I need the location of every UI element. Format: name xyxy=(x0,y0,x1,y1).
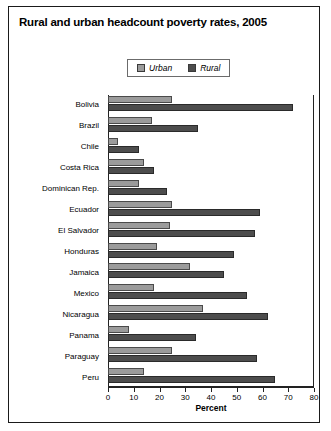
bar-rural xyxy=(108,334,196,341)
x-tick xyxy=(160,388,161,392)
bar-group xyxy=(108,95,314,116)
x-tick-label: 60 xyxy=(258,393,267,402)
bar-urban xyxy=(108,222,170,229)
bar-group xyxy=(108,221,314,242)
category-label: Costa Rica xyxy=(60,163,99,172)
x-axis: 01020304050607080 xyxy=(108,388,314,404)
x-tick xyxy=(288,388,289,392)
bar-urban xyxy=(108,368,144,375)
category-label: Peru xyxy=(82,373,99,382)
rural-swatch-icon xyxy=(188,64,196,72)
bar-rural xyxy=(108,292,247,299)
category-label: Paraguay xyxy=(65,352,99,361)
legend-label-urban: Urban xyxy=(149,63,172,73)
bar-urban xyxy=(108,159,144,166)
bar-group xyxy=(108,367,314,388)
bar-rural xyxy=(108,251,234,258)
chart-legend: Urban Rural xyxy=(127,59,230,77)
category-label: Brazil xyxy=(79,121,99,130)
category-label: Honduras xyxy=(64,247,99,256)
bar-group xyxy=(108,137,314,158)
bar-rural xyxy=(108,209,260,216)
category-label: Chile xyxy=(81,142,99,151)
bar-group xyxy=(108,116,314,137)
x-tick xyxy=(108,388,109,392)
category-label: El Salvador xyxy=(58,226,99,235)
bar-urban xyxy=(108,138,118,145)
category-label: Jamaica xyxy=(69,268,99,277)
category-label: Ecuador xyxy=(69,205,99,214)
bar-group xyxy=(108,158,314,179)
chart-figure: Rural and urban headcount poverty rates,… xyxy=(8,6,320,423)
bar-rural xyxy=(108,167,154,174)
legend-entry-rural: Rural xyxy=(188,63,220,73)
x-tick xyxy=(211,388,212,392)
bar-urban xyxy=(108,180,139,187)
bar-group xyxy=(108,242,314,263)
x-tick-label: 20 xyxy=(155,393,164,402)
x-tick xyxy=(185,388,186,392)
x-tick-label: 40 xyxy=(207,393,216,402)
bar-urban xyxy=(108,201,172,208)
bar-group xyxy=(108,179,314,200)
category-label: Nicaragua xyxy=(63,310,99,319)
bar-group xyxy=(108,325,314,346)
bar-rural xyxy=(108,230,255,237)
x-tick-label: 70 xyxy=(284,393,293,402)
chart-title: Rural and urban headcount poverty rates,… xyxy=(19,16,267,28)
category-label: Mexico xyxy=(74,289,99,298)
legend-entry-urban: Urban xyxy=(137,63,172,73)
x-tick-label: 30 xyxy=(181,393,190,402)
bar-group xyxy=(108,304,314,325)
category-label: Bolivia xyxy=(75,100,99,109)
bar-rural xyxy=(108,376,275,383)
bar-rural xyxy=(108,188,167,195)
x-tick xyxy=(237,388,238,392)
bar-urban xyxy=(108,263,190,270)
bar-group xyxy=(108,200,314,221)
bar-rural xyxy=(108,125,198,132)
bar-urban xyxy=(108,243,157,250)
x-tick xyxy=(314,388,315,392)
x-tick xyxy=(263,388,264,392)
urban-swatch-icon xyxy=(137,64,145,72)
bar-urban xyxy=(108,96,172,103)
bar-group xyxy=(108,346,314,367)
x-tick-label: 10 xyxy=(129,393,138,402)
bar-group xyxy=(108,262,314,283)
x-tick-label: 50 xyxy=(232,393,241,402)
x-tick-label: 80 xyxy=(310,393,319,402)
x-axis-label: Percent xyxy=(108,403,314,413)
bar-rural xyxy=(108,355,257,362)
bar-urban xyxy=(108,326,129,333)
bar-urban xyxy=(108,305,203,312)
bar-rural xyxy=(108,271,224,278)
bar-rural xyxy=(108,104,293,111)
legend-label-rural: Rural xyxy=(200,63,220,73)
bar-rural xyxy=(108,146,139,153)
bar-rural xyxy=(108,313,268,320)
plot-area xyxy=(108,95,314,388)
x-tick-label: 0 xyxy=(106,393,110,402)
bar-urban xyxy=(108,284,154,291)
category-label: Panama xyxy=(69,331,99,340)
x-tick xyxy=(134,388,135,392)
bar-urban xyxy=(108,117,152,124)
category-label: Dominican Rep. xyxy=(42,184,99,193)
bar-group xyxy=(108,283,314,304)
bar-urban xyxy=(108,347,172,354)
category-axis: BoliviaBrazilChileCosta RicaDominican Re… xyxy=(9,95,104,388)
